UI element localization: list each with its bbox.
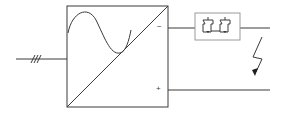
switch-icon: [220, 17, 230, 33]
sine-wave-icon: [68, 12, 131, 53]
inverter-diagram: [0, 0, 282, 113]
filter-block: [195, 13, 240, 40]
converter-block: [67, 6, 168, 107]
ac-input-line: [16, 55, 67, 63]
lightning-fault-icon: [252, 37, 262, 76]
negative-terminal-label: −: [157, 23, 162, 31]
positive-terminal-label: +: [156, 85, 161, 93]
